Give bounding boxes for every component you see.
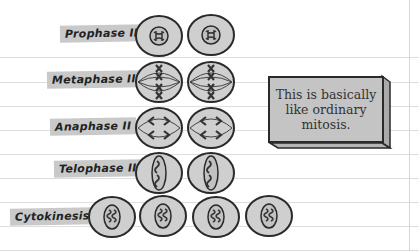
notebook-rule bbox=[0, 57, 419, 58]
prophase-cell-icon bbox=[134, 14, 184, 58]
note-box: This is basically like ordinary mitosis. bbox=[268, 76, 384, 143]
label-prophase-ii: Prophase II bbox=[60, 24, 143, 42]
cytokinesis-cell-icon bbox=[87, 195, 137, 239]
note-line: mitosis. bbox=[276, 117, 377, 132]
label-metaphase-ii: Metaphase II bbox=[47, 70, 141, 89]
metaphase-cell-icon bbox=[134, 60, 184, 104]
cytokinesis-cell-icon bbox=[138, 194, 188, 238]
note-line: This is basically bbox=[276, 87, 377, 102]
anaphase-cell-icon bbox=[186, 106, 236, 150]
cytokinesis-cell-icon bbox=[244, 194, 294, 238]
notebook-margin-rule bbox=[409, 0, 410, 251]
label-cytokinesis: Cytokinesis bbox=[10, 207, 95, 225]
metaphase-cell-icon bbox=[186, 60, 236, 104]
label-anaphase-ii: Anaphase II bbox=[50, 117, 137, 136]
anaphase-cell-icon bbox=[134, 106, 184, 150]
cytokinesis-cell-icon bbox=[191, 195, 241, 239]
prophase-cell-icon bbox=[186, 13, 236, 57]
note-line: like ordinary bbox=[276, 102, 377, 117]
telophase-cell-icon bbox=[134, 151, 184, 195]
telophase-cell-icon bbox=[186, 151, 236, 195]
label-telophase-ii: Telophase II bbox=[54, 159, 142, 178]
